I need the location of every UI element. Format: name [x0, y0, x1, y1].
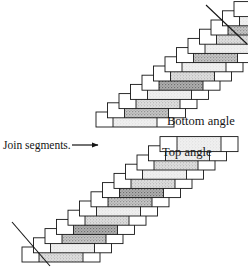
label-bottom-angle: Bottom angle: [167, 115, 235, 128]
segment-bar: [234, 2, 248, 17]
upper-assembly: [96, 2, 248, 127]
figure-root: Bottom angle Top angle Join segments.: [0, 0, 248, 271]
label-join-segments: Join segments.: [3, 140, 71, 152]
joinery-diagram: [0, 0, 248, 271]
label-top-angle: Top angle: [162, 146, 211, 159]
